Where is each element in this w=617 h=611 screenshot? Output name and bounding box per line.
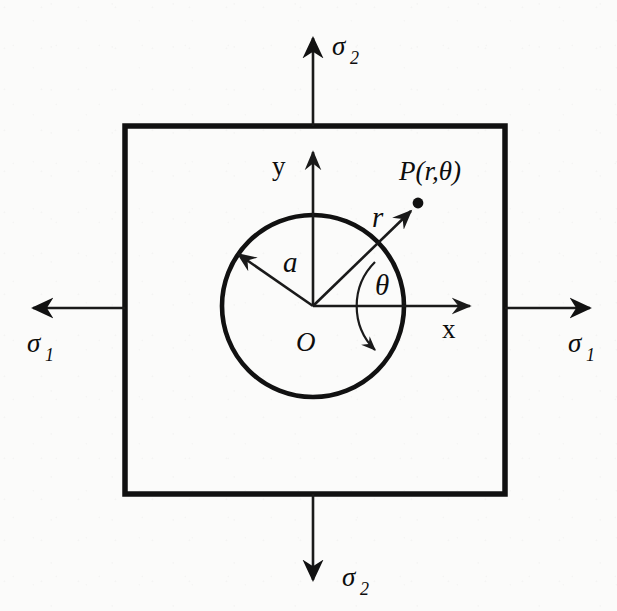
- stress-left-symbol: σ: [27, 328, 42, 358]
- figure-container: σ 2 σ 2 σ 1 σ 1 y x O a r θ P(r,θ): [0, 0, 617, 611]
- stress-left-subscript: 1: [45, 345, 54, 365]
- stress-label-left: σ 1: [27, 328, 54, 365]
- stress-right-symbol: σ: [568, 328, 583, 358]
- stress-label-top: σ 2: [332, 31, 359, 68]
- stress-label-right: σ 1: [568, 328, 595, 365]
- stress-label-bottom: σ 2: [342, 562, 369, 599]
- stress-diagram: σ 2 σ 2 σ 1 σ 1 y x O a r θ P(r,θ): [0, 0, 617, 611]
- point-p-marker: [413, 198, 424, 209]
- theta-label: θ: [375, 269, 389, 301]
- stress-bottom-subscript: 2: [360, 579, 369, 599]
- y-axis-label: y: [272, 151, 286, 181]
- hole-radius-label: a: [283, 246, 298, 278]
- stress-top-symbol: σ: [332, 31, 347, 61]
- stress-bottom-symbol: σ: [342, 562, 357, 592]
- stress-top-subscript: 2: [350, 48, 359, 68]
- stress-right-subscript: 1: [586, 345, 595, 365]
- point-p-label: P(r,θ): [398, 156, 461, 186]
- hole-radius-vector: [238, 254, 313, 306]
- origin-label: O: [296, 327, 316, 357]
- x-axis-label: x: [442, 314, 456, 344]
- position-radius-label: r: [372, 201, 384, 233]
- position-vector-r: [313, 211, 411, 306]
